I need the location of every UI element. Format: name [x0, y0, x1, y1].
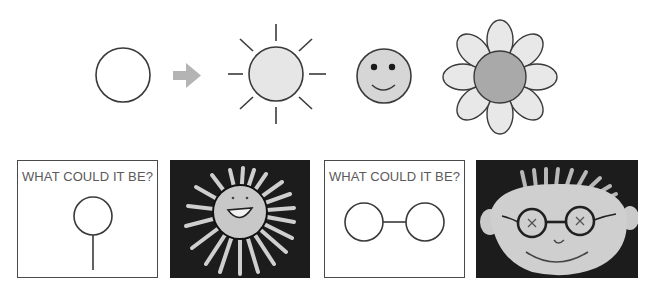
arrow-right-icon — [173, 63, 201, 88]
prompt-panel-lollipop: WHAT COULD IT BE? — [17, 160, 158, 278]
photo-sun-drawing — [170, 160, 310, 278]
circle-with-stem-shape — [17, 160, 158, 278]
smiley-face-icon — [357, 49, 411, 103]
photo-face-drawing — [476, 160, 638, 278]
prompt-panel-glasses: WHAT COULD IT BE? — [324, 160, 465, 278]
plain-circle-shape — [96, 48, 150, 102]
two-joined-circles-shape — [324, 160, 465, 278]
face-drawing-image — [476, 160, 638, 278]
sun-icon — [228, 24, 326, 124]
flower-icon — [443, 20, 557, 134]
top-row-diagram — [0, 0, 656, 150]
sun-drawing-image — [170, 160, 310, 278]
